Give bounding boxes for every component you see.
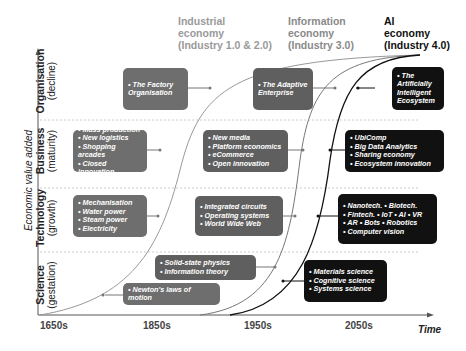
box-industrial-technology: Mechanisation Water power Steam power El…	[73, 195, 147, 237]
era-ai-title: AI economy (Industry 4.0)	[384, 15, 450, 51]
box-ai-business: UbiComp Big Data Analytics Sharing econo…	[345, 130, 444, 172]
x-tick-1650s: 1650s	[40, 320, 68, 331]
box-information-business: New media Platform economics eCommerce O…	[203, 130, 288, 172]
box-ai-technology: Nanotech. • Biotech. Fintech. • IoT • AI…	[338, 194, 437, 244]
box-information-science: Solid-state physics Information theory	[155, 255, 256, 280]
box-ai-science: Materials science Cognitive science Syst…	[304, 260, 387, 302]
x-tick-2050s: 2050s	[345, 320, 373, 331]
x-tick-1950s: 1950s	[244, 320, 272, 331]
x-tick-1850s: 1850s	[143, 320, 171, 331]
box-industrial-organisation: The Factory Organisation	[123, 68, 188, 110]
box-industrial-science: Newton's laws of motion	[123, 283, 220, 305]
y-axis-label: Economic value added	[23, 121, 34, 241]
box-information-technology: Integrated circuits Operating systems Wo…	[195, 196, 283, 236]
era-information-title: Information economy (Industry 3.0)	[288, 15, 354, 51]
box-industrial-business: Mass production New logistics Shopping a…	[73, 130, 147, 172]
box-information-organisation: The Adaptive Enterprise	[253, 68, 313, 110]
x-axis-label: Time	[418, 324, 441, 335]
stage-science: Science(gestation)	[35, 240, 57, 330]
box-ai-organisation: The Artificially Intelligent Ecosystem	[392, 67, 444, 110]
era-industrial-title: Industrial economy (Industry 1.0 & 2.0)	[178, 15, 272, 51]
diagram-lines	[0, 0, 466, 351]
